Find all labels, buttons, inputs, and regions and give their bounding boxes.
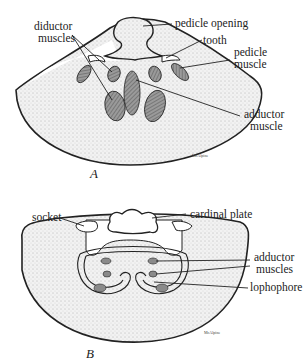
figure-a: diductor muscles pedicle opening tooth p… bbox=[16, 17, 284, 181]
label-adductor-b: adductor bbox=[254, 251, 294, 263]
brachiopod-diagram: diductor muscles pedicle opening tooth p… bbox=[0, 0, 307, 364]
figure-label-a: A bbox=[89, 166, 98, 181]
label-pedicle-opening: pedicle opening bbox=[175, 17, 248, 30]
label-lophophore: lophophore bbox=[250, 281, 302, 294]
label-tooth: tooth bbox=[203, 34, 227, 46]
label-diductor: diductor bbox=[34, 20, 72, 32]
cardinal-plate bbox=[108, 210, 158, 234]
artist-signature-b: McAlpine bbox=[204, 330, 220, 335]
figure-label-b: B bbox=[86, 346, 94, 361]
socket-left bbox=[76, 221, 98, 232]
label-adductor-muscle: muscle bbox=[250, 120, 283, 132]
label-adductor: adductor bbox=[244, 108, 284, 120]
label-muscles-b: muscles bbox=[256, 263, 294, 275]
label-pedicle-muscle: muscle bbox=[234, 58, 267, 70]
artist-signature-a: McAlpine bbox=[192, 153, 208, 158]
figure-b: socket cardinal plate adductor muscles l… bbox=[22, 208, 303, 361]
label-cardinal-plate: cardinal plate bbox=[190, 208, 252, 221]
label-socket: socket bbox=[32, 211, 62, 223]
label-muscles: muscles bbox=[38, 32, 76, 44]
